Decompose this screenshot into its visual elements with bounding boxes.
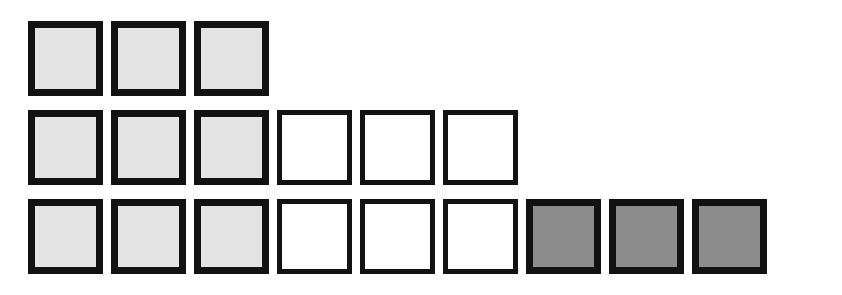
empty-square-r2c4 xyxy=(277,110,352,185)
light-square-r2c1 xyxy=(28,110,103,185)
empty-square-r2c5 xyxy=(360,110,435,185)
light-square-r1c2 xyxy=(111,21,186,96)
dark-square-r3c9 xyxy=(692,199,767,274)
grid-row-3 xyxy=(0,199,842,274)
grid-row-1 xyxy=(0,21,842,96)
grid-row-2 xyxy=(0,110,842,185)
light-square-r3c1 xyxy=(28,199,103,274)
light-square-r2c2 xyxy=(111,110,186,185)
light-square-r2c3 xyxy=(194,110,269,185)
empty-square-r3c5 xyxy=(360,199,435,274)
empty-square-r3c6 xyxy=(443,199,518,274)
empty-square-r2c6 xyxy=(443,110,518,185)
light-square-r3c3 xyxy=(194,199,269,274)
dark-square-r3c8 xyxy=(609,199,684,274)
light-square-r1c1 xyxy=(28,21,103,96)
light-square-r3c2 xyxy=(111,199,186,274)
light-square-r1c3 xyxy=(194,21,269,96)
square-grid-figure xyxy=(0,0,842,295)
empty-square-r3c4 xyxy=(277,199,352,274)
dark-square-r3c7 xyxy=(526,199,601,274)
